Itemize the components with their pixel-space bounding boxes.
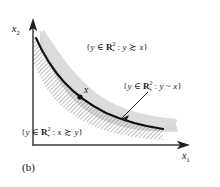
figure-container: x2 x1 {y ∈ R2+ : y ≿ x} {y ∈ R2+ : y ~ x… bbox=[0, 0, 220, 187]
lower-set-colon: : bbox=[50, 127, 57, 137]
bundle-point-marker bbox=[77, 94, 82, 99]
lower-set-label: {y ∈ R2+ : x ≿ y} bbox=[21, 126, 83, 139]
indifference-set-colon: : bbox=[152, 81, 159, 91]
x-axis-label: x1 bbox=[182, 150, 190, 163]
x-axis-label-subscript: 1 bbox=[186, 156, 189, 163]
y-axis-label: x2 bbox=[12, 23, 20, 36]
y-axis-label-subscript: 2 bbox=[16, 29, 19, 36]
upper-set-label: {y ∈ R2+ : y ≿ x} bbox=[86, 41, 148, 54]
indifference-set-label: {y ∈ R2+ : y ~ x} bbox=[123, 80, 182, 93]
upper-set-relation-symbol: ≿ bbox=[127, 42, 140, 52]
figure-caption: (b) bbox=[22, 161, 35, 173]
indifference-set-close-brace: } bbox=[177, 81, 181, 91]
lower-set-close-brace: } bbox=[79, 127, 83, 137]
indifference-set-relation-symbol: ~ bbox=[164, 81, 174, 91]
upper-set-close-brace: } bbox=[144, 42, 148, 52]
upper-set-colon: : bbox=[115, 42, 122, 52]
bundle-point-label: x bbox=[84, 85, 88, 95]
lower-set-member-symbol: ∈ bbox=[30, 127, 41, 137]
indifference-set-member-symbol: ∈ bbox=[132, 81, 143, 91]
lower-set-relation-symbol: ≿ bbox=[62, 127, 75, 137]
upper-set-member-symbol: ∈ bbox=[95, 42, 106, 52]
